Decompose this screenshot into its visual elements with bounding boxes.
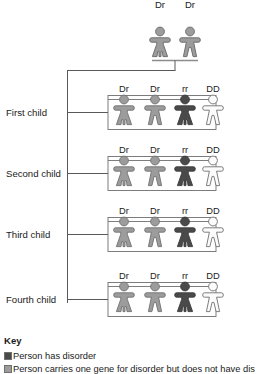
- key-legend: Key Person has disorder Person carries o…: [4, 336, 270, 374]
- child-1-4-genotype-label: DD: [206, 84, 220, 94]
- parent-individual-2: Dr: [180, 0, 201, 57]
- child-1-1-genotype-label: Dr: [119, 84, 129, 94]
- child-3-4-genotype-label: DD: [206, 206, 220, 216]
- key-label-carrier: Person carries one gene for disorder but…: [13, 364, 255, 374]
- key-entry-affected: Person has disorder: [4, 351, 270, 362]
- child-row-second-label: Second child: [6, 168, 61, 179]
- child-4-3-genotype-label: rr: [182, 271, 188, 281]
- key-label-affected: Person has disorder: [13, 351, 96, 362]
- child-3-2-genotype-label: Dr: [150, 206, 160, 216]
- parent-1-genotype-label: Dr: [155, 0, 165, 10]
- child-row-third-label: Third child: [6, 229, 50, 240]
- child-1-3-genotype-label: rr: [182, 84, 188, 94]
- child-4-4-genotype-label: DD: [206, 271, 220, 281]
- inheritance-pedigree-diagram: Dr Dr First child: [0, 0, 270, 374]
- child-3-3-genotype-label: rr: [182, 206, 188, 216]
- child-3-1-genotype-label: Dr: [119, 206, 129, 216]
- child-2-4-genotype-label: DD: [206, 145, 220, 155]
- parent-1-figure-female: [150, 27, 171, 57]
- key-swatch-carrier: [4, 365, 12, 373]
- parent-2-figure-male: [180, 27, 201, 57]
- child-row-fourth-label: Fourth child: [6, 294, 56, 305]
- child-row-fourth: Fourth child Dr Dr rr DD: [6, 271, 223, 317]
- child-row-first: First child Dr Dr rr DD: [6, 84, 223, 130]
- child-1-2-genotype-label: Dr: [150, 84, 160, 94]
- child-4-1-genotype-label: Dr: [119, 271, 129, 281]
- child-2-2-genotype-label: Dr: [150, 145, 160, 155]
- pedigree-svg: Dr Dr First child: [0, 0, 270, 340]
- key-swatch-affected: [4, 352, 12, 360]
- child-row-third: Third child Dr Dr rr DD: [6, 206, 223, 252]
- child-row-second: Second child Dr Dr rr DD: [6, 145, 223, 191]
- child-4-2-genotype-label: Dr: [150, 271, 160, 281]
- key-title: Key: [4, 336, 270, 346]
- child-2-1-genotype-label: Dr: [119, 145, 129, 155]
- child-2-3-genotype-label: rr: [182, 145, 188, 155]
- child-row-first-label: First child: [6, 107, 47, 118]
- parent-individual-1: Dr: [150, 0, 171, 57]
- parent-2-genotype-label: Dr: [185, 0, 195, 10]
- parent-generation: Dr Dr: [67, 0, 200, 303]
- key-entry-carrier: Person carries one gene for disorder but…: [4, 364, 270, 374]
